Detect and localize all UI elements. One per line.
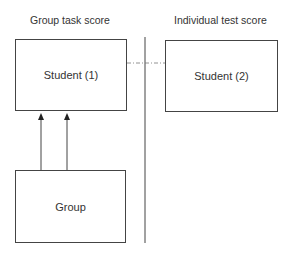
arrowhead-left-icon bbox=[38, 113, 44, 120]
arrowhead-right-icon bbox=[64, 113, 70, 120]
diagram-connectors bbox=[0, 0, 289, 254]
